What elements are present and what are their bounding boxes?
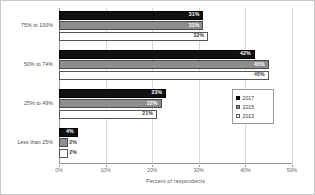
bar-value-label: 45% bbox=[254, 72, 268, 77]
bar-groups: 31%31%32%42%45%45%23%22%21%4%2%2% bbox=[59, 8, 292, 164]
plot-area: 31%31%32%42%45%45%23%22%21%4%2%2% bbox=[59, 8, 292, 164]
legend-swatch-icon-2013 bbox=[236, 114, 240, 118]
x-tick-label: 40% bbox=[240, 167, 250, 173]
x-tick-label: 0% bbox=[55, 167, 63, 173]
bar-row: 23% bbox=[59, 89, 166, 98]
category-label: Less than 25% bbox=[17, 139, 53, 145]
legend-swatch-icon-2015 bbox=[236, 105, 240, 109]
bar-value-label: 21% bbox=[142, 111, 156, 116]
chart-container: 31%31%32%42%45%45%23%22%21%4%2%2% 75% to… bbox=[0, 0, 315, 195]
bar-2015[interactable]: 2% bbox=[59, 138, 68, 147]
gridline bbox=[292, 8, 293, 164]
category-label: 25% to 49% bbox=[24, 100, 53, 106]
legend-label-2015: 2015 bbox=[243, 104, 255, 110]
bar-row: 22% bbox=[59, 99, 162, 108]
chart-legend: 2017 2015 2013 bbox=[232, 89, 274, 124]
category-axis-labels: 75% to 100%50% to 74%25% to 49%Less than… bbox=[1, 8, 57, 164]
legend-label-2017: 2017 bbox=[243, 95, 255, 101]
legend-item-2017[interactable]: 2017 bbox=[236, 93, 270, 102]
bar-group: 31%31%32% bbox=[59, 11, 292, 41]
bar-value-label: 32% bbox=[193, 33, 207, 38]
bar-value-label: 22% bbox=[147, 101, 161, 106]
x-tick-label: 50% bbox=[287, 167, 297, 173]
x-tick-label: 10% bbox=[100, 167, 110, 173]
bar-row: 2% bbox=[59, 149, 68, 158]
legend-label-2013: 2013 bbox=[243, 113, 255, 119]
bar-group: 42%45%45% bbox=[59, 50, 292, 80]
bar-value-label: 23% bbox=[151, 90, 165, 95]
category-label: 75% to 100% bbox=[21, 22, 53, 28]
bar-2013[interactable]: 45% bbox=[59, 71, 269, 80]
bar-2015[interactable]: 45% bbox=[59, 60, 269, 69]
bar-row: 45% bbox=[59, 71, 269, 80]
bar-2015[interactable]: 22% bbox=[59, 99, 162, 108]
bar-row: 21% bbox=[59, 110, 157, 119]
bar-value-label: 4% bbox=[66, 129, 77, 134]
bar-2017[interactable]: 4% bbox=[59, 128, 78, 137]
x-axis-line bbox=[59, 163, 292, 164]
x-axis-title: Percent of respondents bbox=[59, 178, 292, 184]
bar-row: 45% bbox=[59, 60, 269, 69]
bar-2015[interactable]: 31% bbox=[59, 21, 203, 30]
legend-item-2013[interactable]: 2013 bbox=[236, 111, 270, 120]
category-label: 50% to 74% bbox=[24, 61, 53, 67]
bar-value-label: 42% bbox=[240, 51, 254, 56]
bar-2017[interactable]: 31% bbox=[59, 11, 203, 20]
bar-row: 42% bbox=[59, 50, 255, 59]
bar-row: 31% bbox=[59, 11, 203, 20]
bar-value-label: 31% bbox=[189, 23, 203, 28]
bar-2013[interactable]: 32% bbox=[59, 32, 208, 41]
bar-2013[interactable]: 2% bbox=[59, 149, 68, 158]
bar-value-label: 31% bbox=[189, 12, 203, 17]
bar-2017[interactable]: 42% bbox=[59, 50, 255, 59]
bar-row: 2% bbox=[59, 138, 68, 147]
bar-value-label: 45% bbox=[254, 62, 268, 67]
bar-row: 4% bbox=[59, 128, 78, 137]
bar-value-label: 2% bbox=[67, 150, 77, 155]
legend-item-2015[interactable]: 2015 bbox=[236, 102, 270, 111]
bar-2013[interactable]: 21% bbox=[59, 110, 157, 119]
x-tick-label: 20% bbox=[147, 167, 157, 173]
legend-swatch-icon-2017 bbox=[236, 96, 240, 100]
bar-row: 31% bbox=[59, 21, 203, 30]
bar-group: 4%2%2% bbox=[59, 128, 292, 158]
x-axis-ticks: 0%10%20%30%40%50% bbox=[59, 165, 292, 175]
x-tick-label: 30% bbox=[194, 167, 204, 173]
bar-value-label: 2% bbox=[67, 140, 77, 145]
bar-row: 32% bbox=[59, 32, 208, 41]
bar-2017[interactable]: 23% bbox=[59, 89, 166, 98]
